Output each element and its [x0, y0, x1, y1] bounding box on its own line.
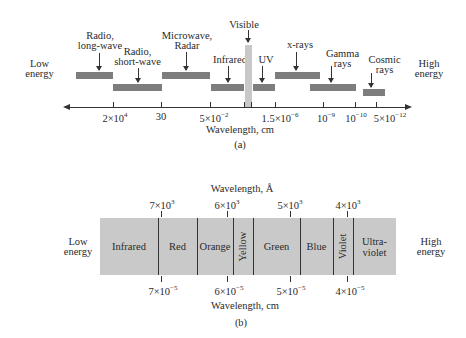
tick-a-1 [113, 102, 114, 108]
band-ultraviolet: Ultra-violet [353, 218, 396, 275]
cosmic-bar [363, 89, 385, 96]
band-red: Red [158, 218, 197, 275]
radio-short-arrow-icon [138, 68, 139, 82]
top-axis-title-b: Wavelength, Å [182, 184, 302, 194]
axis-title-a: Wavelength, cm [180, 125, 300, 135]
radio-short-bar [113, 84, 162, 91]
uv-arrow-icon [262, 66, 263, 82]
tick-a-7 [376, 102, 377, 108]
cosmic-arrow-icon [371, 73, 372, 87]
bottom-tick-label-b-2: 6×10−5 [214, 284, 243, 297]
tick-a-6 [355, 102, 356, 108]
xrays-arrow-icon [296, 52, 297, 70]
tick-label-a-7: 5×10−12 [374, 111, 407, 124]
top-tick-label-b-2: 6×103 [214, 198, 239, 211]
visible-spectrum-band: Infrared Red Orange Yellow Green Blue Vi… [100, 218, 396, 275]
high-energy-label-b: Highenergy [410, 237, 452, 257]
microwave-bar [162, 72, 210, 79]
top-tick-b-4 [347, 211, 348, 217]
tick-a-5 [323, 102, 324, 108]
top-tick-label-b-1: 7×103 [149, 198, 174, 211]
caption-a: (a) [225, 140, 255, 150]
tick-a-vis1 [244, 102, 245, 108]
top-tick-b-2 [227, 211, 228, 217]
tick-a-2 [161, 102, 162, 108]
top-tick-label-b-4: 4×103 [335, 198, 360, 211]
tick-label-a-4: 1.5×10−6 [262, 111, 299, 124]
bottom-tick-b-1 [161, 276, 162, 282]
tick-a-3 [210, 102, 211, 108]
visible-label: Visible [226, 20, 262, 30]
visible-bar [245, 45, 252, 107]
gamma-label: Gammarays [320, 49, 365, 69]
caption-b: (b) [226, 318, 256, 328]
gamma-arrow-icon [331, 66, 332, 82]
microwave-label: Microwave,Radar [142, 31, 232, 51]
axis-left-arrow-icon [63, 104, 70, 110]
tick-label-a-1: 2×104 [102, 111, 127, 124]
low-energy-label-a: Lowenergy [22, 59, 57, 79]
band-infrared: Infrared [100, 218, 158, 275]
top-tick-b-1 [161, 211, 162, 217]
infrared-bar [211, 84, 244, 91]
band-orange: Orange [197, 218, 233, 275]
radio-long-bar [76, 72, 113, 79]
band-blue: Blue [300, 218, 333, 275]
gamma-bar [310, 84, 356, 91]
tick-label-a-5: 10−9 [317, 111, 335, 124]
band-green: Green [253, 218, 300, 275]
bottom-tick-b-2 [227, 276, 228, 282]
band-violet: Violet [333, 218, 353, 275]
axis-right-arrow-icon [405, 104, 412, 110]
bottom-axis-title-b: Wavelength, cm [185, 301, 305, 311]
bottom-tick-label-b-1: 7×10−5 [148, 284, 177, 297]
tick-a-vis2 [251, 102, 252, 108]
bottom-tick-label-b-4: 4×10−5 [335, 284, 364, 297]
band-yellow: Yellow [233, 218, 253, 275]
radio-long-arrow-icon [99, 53, 100, 70]
bottom-tick-b-4 [347, 276, 348, 282]
uv-label: UV [254, 55, 278, 65]
bottom-tick-label-b-3: 5×10−5 [276, 284, 305, 297]
visible-arrow-icon [248, 30, 249, 42]
tick-label-a-6: 10−10 [345, 111, 366, 124]
microwave-arrow-icon [186, 52, 187, 70]
infrared-arrow-icon [228, 66, 229, 82]
tick-a-4 [275, 102, 276, 108]
uv-bar [253, 84, 275, 91]
high-energy-label-a: Highenergy [408, 59, 450, 79]
xrays-label: x-rays [275, 40, 325, 50]
top-tick-label-b-3: 5×103 [277, 198, 302, 211]
low-energy-label-b: Lowenergy [58, 237, 98, 257]
tick-label-a-2: 30 [156, 111, 167, 122]
xrays-bar [275, 72, 320, 79]
top-tick-b-3 [290, 211, 291, 217]
bottom-tick-b-3 [290, 276, 291, 282]
tick-label-a-3: 5×10−2 [199, 111, 228, 124]
cosmic-label: Cosmicrays [362, 55, 407, 75]
